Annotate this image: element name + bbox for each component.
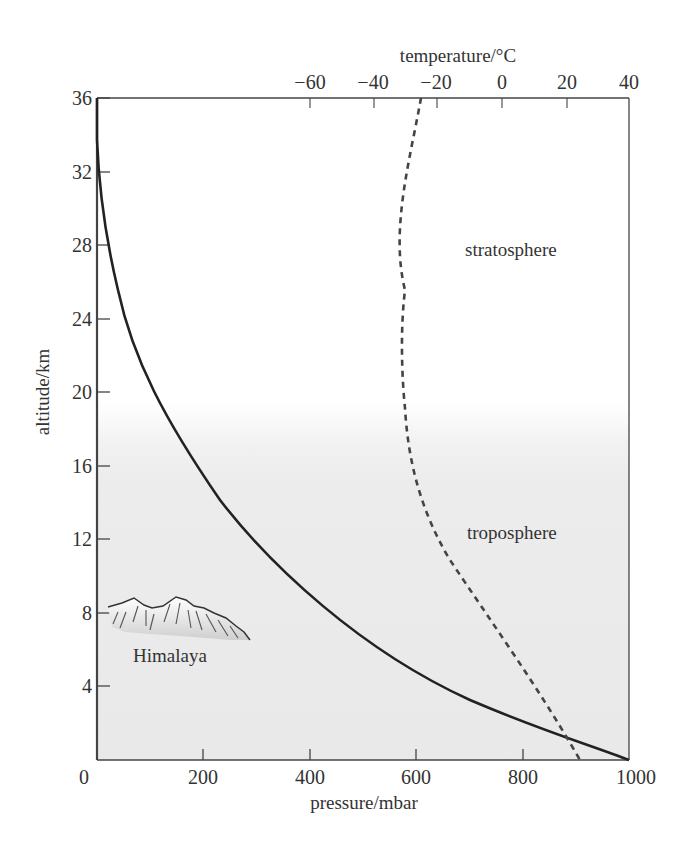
stratosphere-label: stratosphere xyxy=(465,239,557,260)
y-tick-28: 28 xyxy=(72,234,92,256)
himalaya-label: Himalaya xyxy=(133,645,207,666)
atmosphere-chart: 36 32 28 24 20 16 12 8 4 altitude/km 0 2… xyxy=(0,0,680,851)
y-tick-8: 8 xyxy=(82,602,92,624)
y-tick-4: 4 xyxy=(82,675,92,697)
y-axis-tick-labels: 36 32 28 24 20 16 12 8 4 xyxy=(72,87,92,697)
x-tick-400: 400 xyxy=(295,766,325,788)
x2-tick-20: 20 xyxy=(557,71,577,93)
y-tick-24: 24 xyxy=(72,308,92,330)
y-tick-36: 36 xyxy=(72,87,92,109)
x-axis-tick-labels: 0 200 400 600 800 1000 xyxy=(79,766,656,788)
x2-tick-minus40: −40 xyxy=(357,71,388,93)
x2-tick-40: 40 xyxy=(619,71,639,93)
x2-tick-minus20: −20 xyxy=(420,71,451,93)
y-tick-20: 20 xyxy=(72,381,92,403)
y-tick-16: 16 xyxy=(72,455,92,477)
x-axis-label: pressure/mbar xyxy=(310,792,418,813)
x2-axis-label: temperature/°C xyxy=(400,45,516,66)
x-tick-800: 800 xyxy=(508,766,538,788)
y-tick-32: 32 xyxy=(72,161,92,183)
y-tick-12: 12 xyxy=(72,528,92,550)
x2-tick-0: 0 xyxy=(497,71,507,93)
x-tick-0: 0 xyxy=(79,766,89,788)
x-tick-200: 200 xyxy=(188,766,218,788)
y-axis-label: altitude/km xyxy=(32,349,53,436)
x2-axis-tick-labels: −60 −40 −20 0 20 40 xyxy=(294,71,639,93)
troposphere-label: troposphere xyxy=(467,522,557,543)
x-tick-600: 600 xyxy=(401,766,431,788)
x2-tick-minus60: −60 xyxy=(294,71,325,93)
x-tick-1000: 1000 xyxy=(616,766,656,788)
